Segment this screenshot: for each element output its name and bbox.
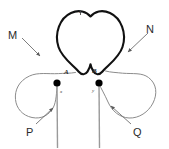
- label-right-node-y: y: [92, 88, 94, 93]
- label-left-vessel-p: P: [26, 127, 33, 138]
- right-vessel-line: [99, 83, 100, 148]
- left-junction-dot: [53, 79, 60, 86]
- leader-line-n: [128, 33, 148, 52]
- leader-line-p: [36, 108, 53, 124]
- label-right-junction-b: B: [92, 68, 97, 75]
- heart-diagram-figure: L M N P Q A B x y: [0, 0, 169, 149]
- label-right-loop-n: N: [146, 24, 154, 35]
- heart-outline-shape: [57, 11, 124, 74]
- leader-line-q: [111, 106, 131, 124]
- label-heart-chamber-l: L: [79, 9, 82, 14]
- left-loop-shape: [15, 73, 75, 118]
- right-junction-dot: [95, 79, 102, 86]
- right-loop-shape: [99, 71, 156, 118]
- label-left-node-x: x: [60, 89, 62, 94]
- label-left-loop-m: M: [8, 30, 17, 41]
- label-right-vessel-q: Q: [133, 127, 142, 138]
- leader-line-m: [22, 38, 40, 56]
- left-vessel-line: [57, 83, 58, 148]
- label-left-junction-a: A: [64, 69, 69, 76]
